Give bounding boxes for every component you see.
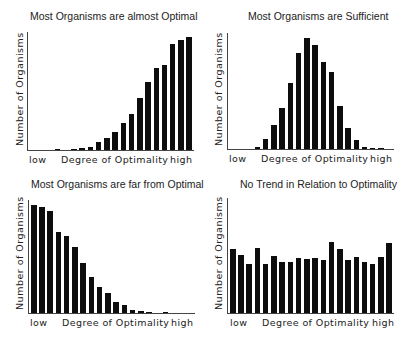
bar	[121, 123, 127, 150]
bar	[321, 260, 327, 313]
x-axis-label: Degree of Optimality	[262, 317, 369, 328]
plot-area	[28, 200, 195, 314]
bar	[130, 310, 136, 313]
bar	[271, 125, 277, 149]
bar	[163, 312, 169, 313]
bar	[146, 312, 152, 313]
x-tick-high: high	[372, 317, 394, 328]
bar	[362, 147, 368, 149]
bar	[312, 45, 318, 149]
bar	[354, 140, 360, 149]
x-tick-low: low	[29, 154, 46, 165]
bar	[321, 62, 327, 149]
chart-title: Most Organisms are almost Optimal	[30, 10, 197, 22]
bar	[129, 114, 135, 150]
bar	[304, 259, 310, 313]
bar	[386, 243, 392, 313]
bars	[29, 200, 195, 313]
bar	[263, 139, 269, 149]
x-axis-label: Degree of Optimality	[61, 154, 168, 165]
plot-area	[227, 33, 394, 150]
bar	[170, 44, 176, 150]
chart-title: Most Organisms are far from Optimal	[31, 178, 204, 190]
bar	[137, 98, 143, 150]
bar	[337, 106, 343, 149]
bar	[246, 264, 252, 313]
bar	[255, 147, 261, 149]
bar	[138, 311, 144, 313]
bar	[56, 232, 62, 313]
bar	[104, 138, 110, 150]
bar	[154, 68, 160, 150]
x-tick-low: low	[30, 317, 47, 328]
bar	[279, 108, 285, 149]
bar	[329, 242, 335, 313]
bar	[178, 40, 184, 150]
bar	[337, 249, 343, 313]
bar	[89, 277, 95, 313]
bar	[105, 293, 111, 313]
bar	[370, 264, 376, 313]
x-tick-low: low	[229, 153, 246, 164]
bars	[228, 33, 394, 149]
bar	[145, 82, 151, 150]
bar	[122, 305, 128, 313]
x-tick-low: low	[230, 317, 247, 328]
bar	[312, 258, 318, 313]
y-axis-label: Number of Organisms	[14, 196, 25, 310]
bar	[362, 262, 368, 313]
y-axis-label: Number of Organisms	[213, 32, 224, 146]
y-axis-label: Number of Organisms	[213, 196, 224, 310]
bar	[79, 148, 85, 150]
plot-area	[227, 198, 394, 314]
x-tick-high: high	[170, 154, 192, 165]
bar	[230, 249, 236, 313]
bar	[71, 149, 77, 150]
bar	[271, 256, 277, 313]
bar	[39, 207, 45, 313]
bar	[80, 263, 86, 313]
bar	[288, 262, 294, 313]
chart-title: No Trend in Relation to Optimality	[240, 178, 397, 190]
bar	[255, 248, 261, 313]
bar	[162, 65, 168, 150]
bar	[97, 287, 103, 313]
bar	[296, 53, 302, 149]
x-axis-label: Degree of Optimality	[62, 317, 169, 328]
bars	[228, 198, 394, 313]
bars	[28, 32, 194, 150]
bar	[304, 38, 310, 149]
x-tick-high: high	[171, 317, 193, 328]
bar	[263, 264, 269, 313]
bar	[72, 247, 78, 313]
bar	[279, 262, 285, 313]
plot-area	[27, 32, 194, 151]
bar	[112, 132, 118, 150]
bar	[64, 236, 70, 313]
bar	[378, 148, 384, 149]
bar	[329, 72, 335, 149]
bar	[113, 302, 119, 313]
bar	[55, 149, 61, 150]
chart-title: Most Organisms are Sufficient	[248, 10, 388, 22]
bar	[354, 257, 360, 313]
bar	[31, 205, 37, 313]
bar	[88, 147, 94, 150]
x-tick-high: high	[370, 153, 392, 164]
bar	[296, 258, 302, 313]
bar	[345, 128, 351, 149]
bar	[288, 83, 294, 149]
bar	[378, 257, 384, 313]
bar	[370, 148, 376, 149]
bar	[96, 142, 102, 150]
bar	[345, 260, 351, 313]
bar	[238, 255, 244, 314]
y-axis-label: Number of Organisms	[14, 32, 25, 146]
x-axis-label: Degree of Optimality	[261, 153, 368, 164]
bar	[186, 37, 192, 150]
bar	[47, 211, 53, 313]
